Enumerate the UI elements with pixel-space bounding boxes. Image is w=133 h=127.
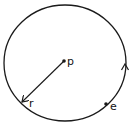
point-e <box>104 102 108 106</box>
center-label: p <box>67 55 74 68</box>
diagram-canvas: p r e <box>0 0 133 127</box>
radius-arrow <box>22 61 64 102</box>
radius-label: r <box>29 97 34 110</box>
direction-arrow-icon <box>122 64 129 70</box>
point-e-label: e <box>110 100 117 113</box>
